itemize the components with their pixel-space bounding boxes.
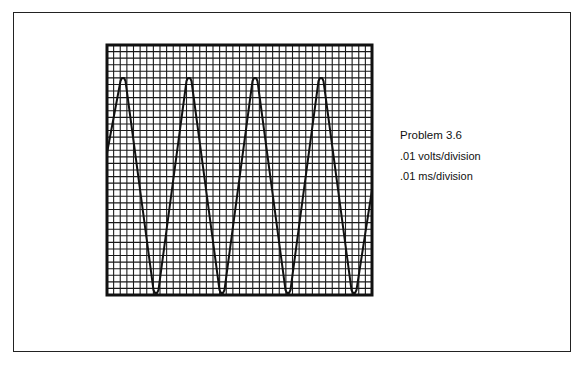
figure-caption: Problem 3.6 .01 volts/division .01 ms/di…: [400, 125, 481, 187]
problem-title: Problem 3.6: [400, 125, 481, 146]
horizontal-scale-label: .01 ms/division: [400, 166, 481, 187]
vertical-scale-label: .01 volts/division: [400, 146, 481, 167]
graticule-grid: [107, 45, 372, 295]
oscilloscope-display: [0, 0, 581, 365]
